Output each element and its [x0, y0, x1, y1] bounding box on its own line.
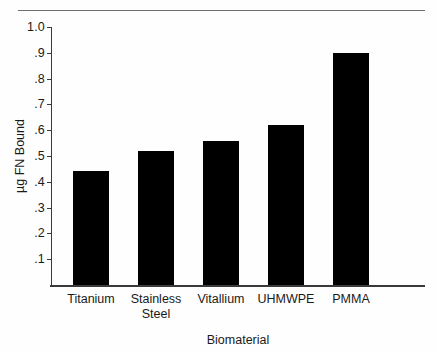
page-top-rule	[18, 10, 425, 11]
bar	[268, 125, 304, 285]
y-axis-tick	[47, 104, 51, 105]
y-axis-tick-label: .5	[11, 149, 45, 163]
y-axis-tick-label: .8	[11, 72, 45, 86]
y-axis-tick	[47, 53, 51, 54]
y-axis-tick	[47, 233, 51, 234]
plot-area: 1.0.9.8.7.6.5.4.3.2.1 TitaniumStainlessS…	[51, 27, 425, 285]
y-axis-tick	[47, 130, 51, 131]
y-axis-tick-label: .7	[11, 97, 45, 111]
y-axis-tick	[47, 79, 51, 80]
y-axis-line	[51, 27, 52, 285]
y-axis-tick-label: .3	[11, 201, 45, 215]
bar	[138, 151, 174, 285]
x-axis-line	[50, 285, 425, 287]
x-axis-title: Biomaterial	[51, 333, 425, 347]
y-axis-tick-label: .9	[11, 46, 45, 60]
y-axis-tick	[47, 259, 51, 260]
figure-container: µg FN Bound 1.0.9.8.7.6.5.4.3.2.1 Titani…	[0, 0, 437, 352]
bar	[203, 141, 239, 285]
y-axis-tick	[47, 156, 51, 157]
y-axis-tick-label: .2	[11, 226, 45, 240]
y-axis-tick-label: 1.0	[11, 20, 45, 34]
y-axis-tick	[47, 27, 51, 28]
bar	[73, 171, 109, 285]
y-axis-tick	[47, 208, 51, 209]
y-axis-tick	[47, 182, 51, 183]
x-axis-tick-label-line2: Steel	[111, 307, 201, 322]
y-axis-tick-label: .6	[11, 123, 45, 137]
y-axis-tick-label: .4	[11, 175, 45, 189]
y-axis-tick-label: .1	[11, 252, 45, 266]
bar	[333, 53, 369, 285]
x-axis-tick-label: PMMA	[306, 292, 396, 307]
x-axis-tick-label-line1: PMMA	[306, 292, 396, 307]
